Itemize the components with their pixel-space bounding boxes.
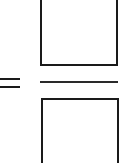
numerator-answer-box[interactable] [40,0,118,66]
denominator-answer-box[interactable] [41,98,119,163]
fraction-bar [40,81,118,83]
equals-line-top [0,78,20,80]
equals-line-bottom [0,86,20,88]
